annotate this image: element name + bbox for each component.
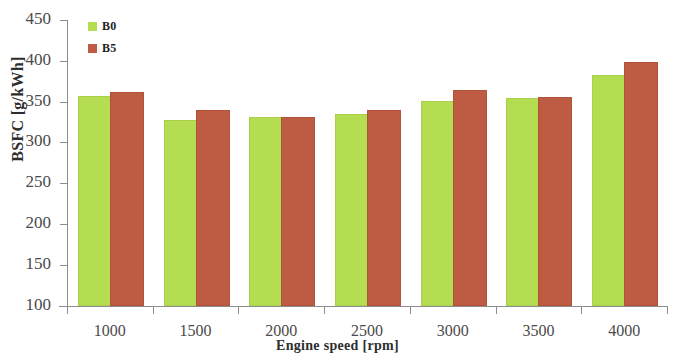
legend-label-b5: B5 — [102, 41, 116, 56]
y-axis-title: BSFC [g/kWh] — [9, 0, 27, 219]
legend-item-b0: B0 — [88, 18, 158, 35]
bar-b5-1500 — [196, 110, 230, 306]
bar-b5-3000 — [453, 90, 487, 306]
x-axis-tick — [324, 306, 325, 314]
y-axis-tick-label: 350 — [26, 91, 52, 111]
bsfc-bar-chart: BSFC [g/kWh] 450 400 350 300 250 200 150… — [0, 0, 675, 361]
x-axis-tick — [410, 306, 411, 314]
legend-item-b5: B5 — [88, 40, 158, 57]
bar-b0-1000 — [78, 96, 112, 306]
bar-b0-2500 — [335, 114, 369, 306]
y-axis-tick-label: 150 — [26, 254, 52, 274]
y-axis-tick: 150 — [60, 265, 68, 266]
bar-b0-1500 — [164, 120, 198, 306]
legend-label-b0: B0 — [102, 19, 116, 34]
bar-b5-4000 — [624, 62, 658, 306]
x-axis-tick — [496, 306, 497, 314]
bar-b5-3500 — [538, 97, 572, 306]
x-axis-line — [59, 306, 667, 307]
legend-swatch-icon-b0 — [88, 22, 97, 31]
y-axis-tick: 200 — [60, 224, 68, 225]
y-axis-tick-label: 250 — [26, 172, 52, 192]
bar-b5-1000 — [110, 92, 144, 306]
bar-b0-2000 — [249, 117, 283, 306]
x-axis-tick — [667, 306, 668, 314]
x-axis-tick — [238, 306, 239, 314]
y-axis-tick-label: 300 — [26, 131, 52, 151]
plot-area: 450 400 350 300 250 200 150 100 10001500… — [67, 20, 667, 306]
y-axis-tick: 450 — [60, 20, 68, 21]
y-axis-tick: 300 — [60, 142, 68, 143]
y-axis-tick: 400 — [60, 61, 68, 62]
y-axis-tick: 250 — [60, 183, 68, 184]
x-axis-tick — [67, 306, 68, 314]
bar-b5-2500 — [367, 110, 401, 306]
x-axis-tick — [581, 306, 582, 314]
bar-b5-2000 — [281, 117, 315, 306]
y-axis-line — [67, 20, 68, 307]
y-axis-tick-label: 100 — [26, 295, 52, 315]
bar-b0-3000 — [421, 101, 455, 306]
x-axis-title: Engine speed [rpm] — [0, 338, 675, 354]
y-axis-tick-label: 400 — [26, 50, 52, 70]
y-axis-tick-label: 200 — [26, 213, 52, 233]
legend-swatch-icon-b5 — [88, 44, 97, 53]
y-axis-tick-label: 450 — [26, 9, 52, 29]
y-axis-tick: 350 — [60, 102, 68, 103]
bar-b0-4000 — [592, 75, 626, 306]
x-axis-tick — [153, 306, 154, 314]
legend: B0 B5 — [88, 18, 158, 62]
bar-b0-3500 — [506, 98, 540, 306]
